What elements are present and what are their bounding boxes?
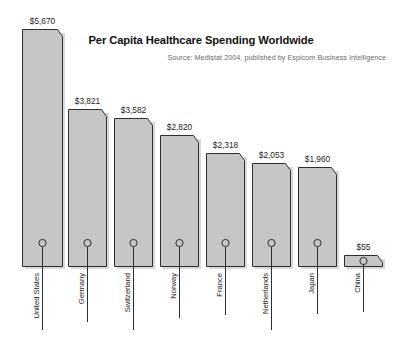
category-label-netherlands: Netherlands <box>261 273 270 314</box>
chart-source-note: Source: Medistat 2004, published by Espi… <box>167 53 386 62</box>
bar-marker-dot <box>39 239 46 246</box>
category-label-france: France <box>215 273 224 297</box>
value-label-germany: $3,821 <box>75 96 101 106</box>
value-label-netherlands: $2,053 <box>259 150 285 160</box>
category-label-switzerland: Switzerland <box>123 273 132 312</box>
bar-marker-dot <box>268 239 275 246</box>
bar-marker-dot <box>130 239 137 246</box>
value-label-switzerland: $3,582 <box>121 105 147 115</box>
bar-marker-dot <box>84 239 91 246</box>
category-label-germany: Germany <box>77 273 86 304</box>
chart-container: Per Capita Healthcare Spending Worldwide… <box>0 0 398 338</box>
value-label-china: $55 <box>357 242 371 252</box>
value-label-france: $2,318 <box>213 140 239 150</box>
category-label-united-states: United States <box>32 273 41 319</box>
category-label-japan: Japan <box>307 273 316 294</box>
category-label-china: China <box>353 272 362 293</box>
bar-chart: Per Capita Healthcare Spending Worldwide… <box>0 0 398 338</box>
chart-title: Per Capita Healthcare Spending Worldwide <box>88 34 313 46</box>
value-label-united-states: $5,670 <box>30 16 56 26</box>
value-label-norway: $2,820 <box>167 122 193 132</box>
bar-marker-dot <box>222 239 229 246</box>
bar-marker-dot <box>360 257 367 264</box>
category-label-norway: Norway <box>169 273 178 299</box>
bar-shape-united-states <box>23 30 63 267</box>
bar-marker-dot <box>314 239 321 246</box>
value-label-japan: $1,960 <box>305 154 331 164</box>
bar-marker-dot <box>176 239 183 246</box>
